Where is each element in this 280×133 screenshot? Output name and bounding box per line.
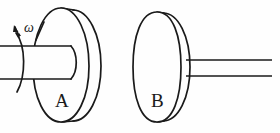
- disk-a-label: A: [55, 90, 69, 111]
- right-shaft-group: [186, 60, 272, 76]
- omega-label: ω: [24, 20, 34, 35]
- left-shaft-body: [0, 46, 75, 79]
- figure-canvas: ω A B: [0, 0, 280, 133]
- rotating-disks-diagram: ω A B: [0, 0, 280, 133]
- disk-b-label: B: [151, 90, 164, 111]
